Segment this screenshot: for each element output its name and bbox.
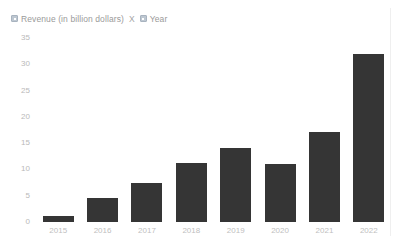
x-axis-tick-label: 2021 (302, 226, 346, 236)
bar[interactable] (131, 183, 162, 222)
x-axis-tick-label: 2020 (258, 226, 302, 236)
bar-group (43, 38, 74, 222)
legend-item-revenue[interactable]: Revenue (in billion dollars) (11, 14, 124, 24)
y-axis-tick-label: 35 (21, 34, 30, 42)
x-axis-tick-label: 2015 (36, 226, 80, 236)
legend-item-label: Revenue (in billion dollars) (21, 14, 124, 24)
square-swatch-icon (140, 15, 147, 22)
x-axis-tick-label: 2018 (169, 226, 213, 236)
x-axis-tick-label: 2017 (125, 226, 169, 236)
bar-group (353, 38, 384, 222)
legend-item-year[interactable]: Year (140, 14, 168, 24)
x-axis-tick-label: 2016 (80, 226, 124, 236)
y-axis-tick-label: 0 (26, 218, 30, 226)
bar[interactable] (87, 198, 118, 222)
y-axis-tick-label: 10 (21, 165, 30, 173)
bar[interactable] (43, 216, 74, 222)
chart-legend: Revenue (in billion dollars) X Year (11, 12, 167, 25)
bar[interactable] (176, 163, 207, 222)
bar[interactable] (353, 54, 384, 222)
y-axis-tick-label: 5 (26, 192, 30, 200)
y-axis: 05101520253035 (0, 38, 30, 222)
bar-group (131, 38, 162, 222)
x-axis-tick-label: 2019 (214, 226, 258, 236)
bar-group (220, 38, 251, 222)
bar[interactable] (265, 164, 296, 222)
bar[interactable] (220, 148, 251, 222)
bar[interactable] (309, 132, 340, 222)
y-axis-tick-label: 20 (21, 113, 30, 121)
bar-group (176, 38, 207, 222)
x-axis: 20152016201720182019202020212022 (36, 226, 391, 240)
legend-item-label: Year (150, 14, 168, 24)
legend-separator: X (128, 14, 136, 24)
y-axis-tick-label: 15 (21, 139, 30, 147)
y-axis-tick-label: 30 (21, 60, 30, 68)
bar-chart-figure: Revenue (in billion dollars) X Year 0510… (0, 0, 402, 252)
bar-group (87, 38, 118, 222)
bar-group (265, 38, 296, 222)
y-axis-tick-label: 25 (21, 87, 30, 95)
plot-area (36, 38, 391, 222)
square-swatch-icon (11, 15, 18, 22)
bar-group (309, 38, 340, 222)
x-axis-tick-label: 2022 (347, 226, 391, 236)
